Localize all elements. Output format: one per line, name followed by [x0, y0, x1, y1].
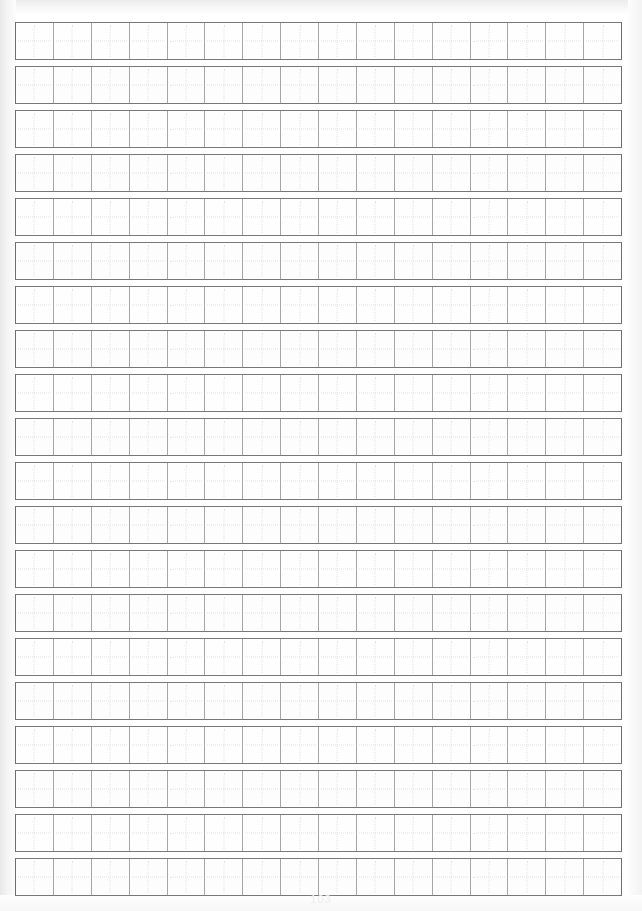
grid-cell[interactable] [546, 639, 584, 675]
grid-cell[interactable] [16, 771, 54, 807]
grid-cell[interactable] [395, 331, 433, 367]
grid-cell[interactable] [357, 683, 395, 719]
grid-cell[interactable] [205, 155, 243, 191]
grid-cell[interactable] [471, 111, 509, 147]
grid-cell[interactable] [584, 551, 621, 587]
grid-cell[interactable] [471, 859, 509, 895]
grid-cell[interactable] [168, 815, 206, 851]
grid-cell[interactable] [357, 331, 395, 367]
grid-cell[interactable] [281, 155, 319, 191]
grid-cell[interactable] [16, 551, 54, 587]
grid-cell[interactable] [168, 683, 206, 719]
grid-cell[interactable] [130, 507, 168, 543]
grid-cell[interactable] [205, 815, 243, 851]
grid-cell[interactable] [205, 243, 243, 279]
grid-cell[interactable] [508, 375, 546, 411]
grid-cell[interactable] [319, 727, 357, 763]
grid-cell[interactable] [130, 155, 168, 191]
grid-cell[interactable] [16, 507, 54, 543]
grid-cell[interactable] [243, 727, 281, 763]
grid-cell[interactable] [130, 199, 168, 235]
grid-cell[interactable] [92, 419, 130, 455]
grid-cell[interactable] [168, 859, 206, 895]
grid-cell[interactable] [546, 287, 584, 323]
grid-cell[interactable] [54, 287, 92, 323]
grid-cell[interactable] [16, 331, 54, 367]
grid-cell[interactable] [130, 243, 168, 279]
grid-cell[interactable] [92, 111, 130, 147]
grid-cell[interactable] [433, 727, 471, 763]
grid-cell[interactable] [508, 67, 546, 103]
grid-cell[interactable] [546, 199, 584, 235]
grid-cell[interactable] [433, 859, 471, 895]
grid-cell[interactable] [205, 771, 243, 807]
grid-cell[interactable] [433, 463, 471, 499]
grid-cell[interactable] [205, 331, 243, 367]
grid-cell[interactable] [243, 375, 281, 411]
grid-cell[interactable] [130, 639, 168, 675]
grid-cell[interactable] [130, 419, 168, 455]
grid-cell[interactable] [357, 815, 395, 851]
grid-cell[interactable] [433, 419, 471, 455]
grid-cell[interactable] [357, 507, 395, 543]
grid-cell[interactable] [357, 287, 395, 323]
grid-cell[interactable] [395, 419, 433, 455]
grid-cell[interactable] [168, 419, 206, 455]
grid-cell[interactable] [168, 551, 206, 587]
grid-cell[interactable] [16, 419, 54, 455]
grid-cell[interactable] [433, 155, 471, 191]
grid-cell[interactable] [243, 287, 281, 323]
grid-cell[interactable] [395, 771, 433, 807]
grid-cell[interactable] [319, 111, 357, 147]
grid-cell[interactable] [281, 375, 319, 411]
grid-cell[interactable] [54, 595, 92, 631]
grid-cell[interactable] [243, 23, 281, 59]
grid-cell[interactable] [471, 155, 509, 191]
grid-cell[interactable] [395, 507, 433, 543]
grid-cell[interactable] [243, 331, 281, 367]
grid-cell[interactable] [357, 243, 395, 279]
grid-cell[interactable] [54, 419, 92, 455]
grid-cell[interactable] [243, 111, 281, 147]
grid-cell[interactable] [584, 771, 621, 807]
grid-cell[interactable] [508, 815, 546, 851]
grid-cell[interactable] [54, 67, 92, 103]
grid-cell[interactable] [92, 155, 130, 191]
grid-cell[interactable] [16, 595, 54, 631]
grid-cell[interactable] [16, 155, 54, 191]
grid-cell[interactable] [319, 375, 357, 411]
grid-cell[interactable] [130, 67, 168, 103]
grid-cell[interactable] [130, 331, 168, 367]
grid-cell[interactable] [168, 331, 206, 367]
grid-cell[interactable] [395, 639, 433, 675]
grid-cell[interactable] [205, 67, 243, 103]
grid-cell[interactable] [584, 727, 621, 763]
grid-cell[interactable] [168, 639, 206, 675]
grid-cell[interactable] [584, 67, 621, 103]
grid-cell[interactable] [130, 375, 168, 411]
grid-cell[interactable] [92, 331, 130, 367]
grid-cell[interactable] [168, 243, 206, 279]
grid-cell[interactable] [319, 199, 357, 235]
grid-cell[interactable] [584, 287, 621, 323]
grid-cell[interactable] [16, 243, 54, 279]
grid-cell[interactable] [433, 111, 471, 147]
grid-cell[interactable] [281, 815, 319, 851]
grid-cell[interactable] [584, 331, 621, 367]
grid-cell[interactable] [584, 639, 621, 675]
grid-cell[interactable] [281, 419, 319, 455]
grid-cell[interactable] [433, 375, 471, 411]
grid-cell[interactable] [584, 155, 621, 191]
grid-cell[interactable] [546, 111, 584, 147]
grid-cell[interactable] [54, 243, 92, 279]
grid-cell[interactable] [319, 551, 357, 587]
grid-cell[interactable] [546, 815, 584, 851]
grid-cell[interactable] [130, 859, 168, 895]
grid-cell[interactable] [130, 727, 168, 763]
grid-cell[interactable] [92, 639, 130, 675]
grid-cell[interactable] [357, 595, 395, 631]
grid-cell[interactable] [16, 375, 54, 411]
grid-cell[interactable] [546, 771, 584, 807]
grid-cell[interactable] [546, 67, 584, 103]
grid-cell[interactable] [243, 155, 281, 191]
